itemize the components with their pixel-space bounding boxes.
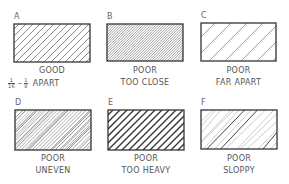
description-label: UNEVEN bbox=[10, 166, 96, 175]
caption-block: POORSLOPPY bbox=[196, 0, 282, 184]
caption-block: POORTOO HEAVY bbox=[103, 0, 189, 184]
rating-label: POOR bbox=[103, 154, 189, 163]
rating-label: POOR bbox=[196, 154, 282, 163]
rating-label: POOR bbox=[10, 154, 96, 163]
caption-block: POORUNEVEN bbox=[10, 0, 96, 184]
description-label: SLOPPY bbox=[196, 166, 282, 175]
description-label: TOO HEAVY bbox=[103, 166, 189, 175]
